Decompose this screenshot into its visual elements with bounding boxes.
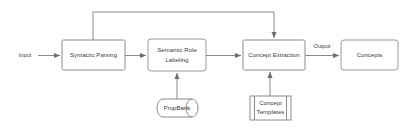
diagram-canvas: Syntactic Parsing Semantic Role Labeling… — [0, 0, 416, 131]
edge-label-output: Output — [314, 43, 331, 49]
node-concept-extraction-label: Concept Extraction — [248, 51, 300, 58]
node-semantic-role-labeling[interactable]: Semantic Role Labeling — [148, 39, 206, 71]
node-propbank-label: PropBank — [164, 104, 192, 111]
edge-feedback-syntactic-parsing-to-concept-extraction — [93, 12, 274, 40]
node-concepts-label: Concepts — [357, 51, 383, 58]
node-syntactic-parsing-label: Syntactic Parsing — [70, 51, 117, 58]
flowchart-svg: Syntactic Parsing Semantic Role Labeling… — [0, 0, 416, 131]
node-propbank[interactable]: PropBank — [157, 99, 198, 117]
edge-label-input: Input — [19, 52, 32, 58]
node-concept-extraction[interactable]: Concept Extraction — [243, 40, 305, 70]
node-semantic-role-labeling-label-line1: Semantic Role — [157, 46, 197, 53]
node-semantic-role-labeling-box — [148, 39, 206, 71]
node-concept-templates[interactable]: Concept Templates — [250, 96, 291, 120]
node-concepts[interactable]: Concepts — [341, 40, 398, 70]
node-syntactic-parsing[interactable]: Syntactic Parsing — [62, 40, 125, 70]
node-concept-templates-label-line1: Concept — [259, 99, 282, 106]
node-concept-templates-label-line2: Templates — [257, 108, 285, 115]
node-semantic-role-labeling-label-line2: Labeling — [165, 56, 188, 63]
